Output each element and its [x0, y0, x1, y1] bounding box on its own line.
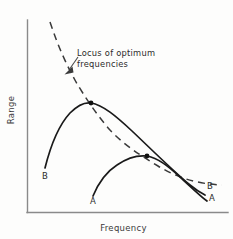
- range-frequency-chart: Locus of optimum frequencies B A B A Ran…: [0, 0, 233, 239]
- curve-a: [93, 156, 207, 201]
- x-axis-label: Frequency: [0, 223, 233, 233]
- curve-a-end-label: A: [209, 193, 215, 203]
- peak-marker-b: [89, 101, 94, 106]
- curve-b: [45, 103, 205, 195]
- annotation-line-2: frequencies: [77, 59, 155, 70]
- curve-b-end-label: B: [207, 181, 213, 191]
- peak-marker-a: [145, 154, 150, 159]
- chart-canvas: [0, 0, 233, 239]
- locus-of-optimum-frequencies-curve: [50, 22, 222, 185]
- annotation-line-1: Locus of optimum: [77, 48, 155, 59]
- annotation-locus-of-optimum-frequencies: Locus of optimum frequencies: [77, 48, 155, 70]
- curve-b-start-label: B: [42, 171, 48, 181]
- y-axis-label: Range: [6, 87, 16, 133]
- curve-a-start-label: A: [90, 196, 96, 206]
